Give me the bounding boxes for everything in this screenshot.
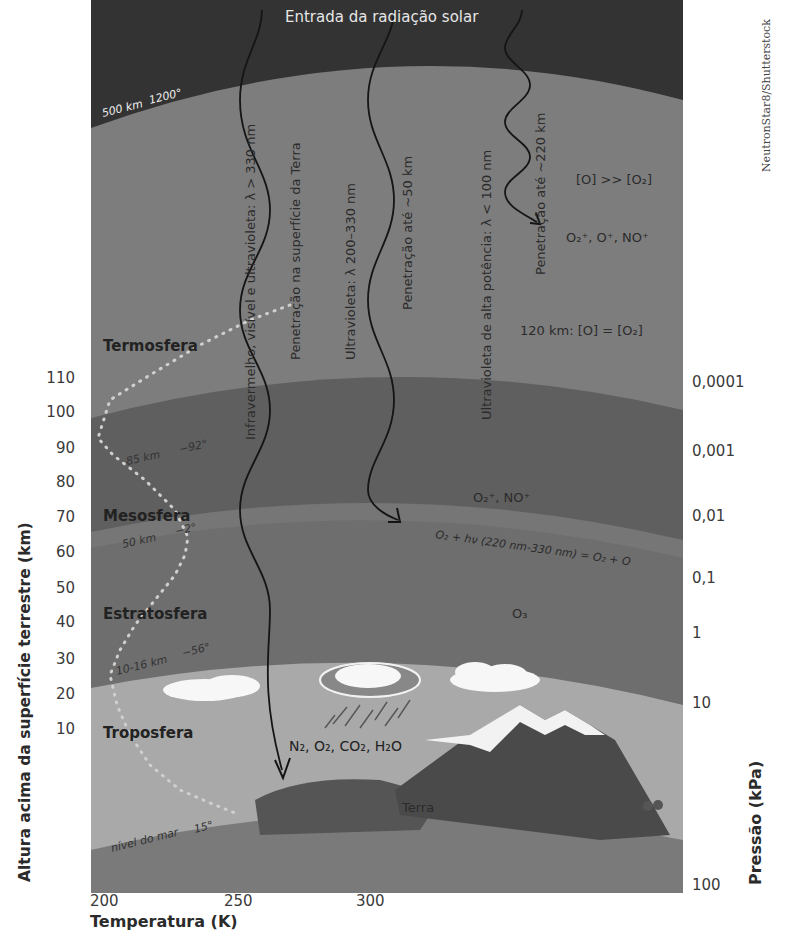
layer-troposphere: Troposfera [103, 724, 193, 742]
rain-cloud-icon [320, 663, 420, 697]
left-axis-tick: 110 [20, 369, 75, 387]
label-troposphere-gases: N₂, O₂, CO₂, H₂O [289, 738, 402, 754]
label-penetration-220km: Penetração até ~220 km [533, 113, 548, 275]
atmosphere-diagram: 500 km 1200° 85 km −92° 50 km −2° 10-16 … [0, 0, 789, 938]
label-penetration-50km: Penetração até ~50 km [400, 156, 415, 310]
right-axis-tick: 10 [692, 694, 711, 712]
right-axis-tick: 0,01 [692, 507, 725, 525]
label-earth: Terra [402, 800, 434, 815]
right-axis-tick: 0,1 [692, 569, 716, 587]
layer-mesosphere: Mesosfera [103, 507, 190, 525]
label-120km: 120 km: [O] = [O₂] [520, 323, 643, 338]
label-radiation-uv: Ultravioleta: λ 200–330 nm [343, 183, 358, 360]
right-axis-tick: 0,0001 [692, 373, 745, 391]
left-axis-title: Altura acima da superfície terrestre (km… [16, 522, 34, 882]
tree-icon [653, 800, 663, 810]
left-axis-tick: 100 [20, 403, 75, 421]
image-credit: NeutronStar8/Shutterstock [760, 19, 773, 172]
diagram-canvas: 500 km 1200° 85 km −92° 50 km −2° 10-16 … [0, 0, 789, 938]
right-axis-tick: 1 [692, 624, 702, 642]
right-axis-tick: 0,001 [692, 442, 735, 460]
layer-stratosphere: Estratosfera [103, 605, 208, 623]
bottom-axis-tick: 300 [356, 892, 385, 910]
label-thermosphere-ions: O₂⁺, O⁺, NO⁺ [566, 230, 649, 245]
left-axis-tick: 90 [20, 439, 75, 457]
label-penetration-surface: Penetração na superfície da Terra [288, 142, 303, 360]
diagram-title: Entrada da radiação solar [285, 8, 478, 26]
right-axis-tick: 100 [692, 876, 721, 894]
bottom-axis-title: Temperatura (K) [90, 912, 238, 931]
right-axis-title: Pressão (kPa) [746, 761, 765, 885]
bottom-axis-tick: 250 [224, 892, 253, 910]
layer-thermosphere: Termosfera [103, 337, 198, 355]
label-o-ratio: [O] >> [O₂] [576, 172, 652, 187]
label-ozone: O₃ [512, 606, 527, 621]
label-mesosphere-ions: O₂⁺, NO⁺ [473, 490, 530, 505]
tree-icon [643, 801, 653, 811]
left-axis-tick: 80 [20, 473, 75, 491]
label-radiation-high-uv: Ultravioleta de alta potência: λ < 100 n… [479, 150, 494, 420]
bottom-axis-tick: 200 [90, 892, 119, 910]
label-radiation-visible: Infravermelho, visível e ultravioleta: λ… [243, 124, 258, 440]
